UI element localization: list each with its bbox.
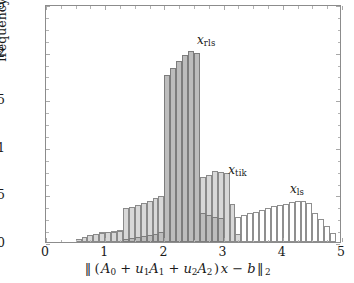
y-tick-label: 0.1 (0, 142, 5, 155)
x-tick-major-top (224, 6, 225, 10)
x-tick-minor-top (90, 6, 91, 9)
y-tick-major (46, 196, 50, 197)
y-tick-minor-right (338, 113, 341, 114)
x-tick-major (283, 238, 284, 242)
y-tick-minor (46, 66, 49, 67)
x-tick-minor-top (135, 6, 136, 9)
x-tick-minor-top (209, 6, 210, 9)
x-tick-minor-top (327, 6, 328, 9)
x-tick-minor-top (298, 6, 299, 9)
y-tick-minor-right (338, 208, 341, 209)
series-label-x-ls: xls (290, 182, 304, 197)
x-tick-minor (179, 240, 180, 243)
y-tick-major-right (336, 101, 340, 102)
y-tick-minor-right (338, 42, 341, 43)
y-tick-minor (46, 42, 49, 43)
y-tick-minor-right (338, 220, 341, 221)
x-tick-label: 3 (198, 246, 248, 259)
y-tick-minor (46, 113, 49, 114)
y-tick-minor-right (338, 173, 341, 174)
x-tick-label: 5 (316, 246, 354, 259)
y-tick-minor-right (338, 185, 341, 186)
x-tick-minor-top (312, 6, 313, 9)
x-tick-minor (238, 240, 239, 243)
x-tick-minor (298, 240, 299, 243)
y-tick-minor (46, 18, 49, 19)
x-tick-major (105, 238, 106, 242)
y-tick-major (46, 149, 50, 150)
y-tick-minor (46, 185, 49, 186)
x-tick-label: 0 (20, 246, 70, 259)
y-tick-minor-right (338, 30, 341, 31)
y-tick-major-right (336, 149, 340, 150)
y-tick-minor-right (338, 232, 341, 233)
y-tick-minor (46, 173, 49, 174)
histogram-figure: frequency xrlsxtikxls 00.050.10.150.20.2… (0, 0, 354, 283)
x-tick-major-top (164, 6, 165, 10)
x-tick-minor (150, 240, 151, 243)
x-tick-minor (209, 240, 210, 243)
y-tick-minor-right (338, 66, 341, 67)
x-tick-major-top (105, 6, 106, 10)
y-tick-minor (46, 137, 49, 138)
x-tick-major (224, 238, 225, 242)
plot-area: xrlsxtikxls (45, 5, 341, 243)
x-tick-major-top (283, 6, 284, 10)
x-tick-minor (268, 240, 269, 243)
y-tick-label: 0.2 (0, 47, 5, 60)
x-tick-major (46, 238, 47, 242)
y-tick-minor-right (338, 77, 341, 78)
series-label-x-tik: xtik (228, 163, 247, 178)
y-tick-major-right (336, 54, 340, 55)
y-tick-minor-right (338, 18, 341, 19)
y-tick-minor (46, 89, 49, 90)
y-tick-minor-right (338, 137, 341, 138)
x-tick-label: 2 (138, 246, 188, 259)
x-tick-minor-top (268, 6, 269, 9)
y-tick-label: 0.15 (0, 94, 5, 107)
x-tick-minor-top (76, 6, 77, 9)
y-tick-minor (46, 30, 49, 31)
x-tick-minor (76, 240, 77, 243)
y-tick-label: 0.05 (0, 189, 5, 202)
y-tick-label: 0.25 (0, 0, 5, 12)
y-tick-major (46, 54, 50, 55)
x-tick-minor-top (120, 6, 121, 9)
y-tick-minor-right (338, 89, 341, 90)
series-label-x-rls: xrls (197, 33, 216, 48)
y-tick-minor (46, 77, 49, 78)
x-tick-minor (253, 240, 254, 243)
x-tick-major (164, 238, 165, 242)
x-tick-minor (61, 240, 62, 243)
x-tick-minor-top (194, 6, 195, 9)
histogram-bar (330, 233, 336, 242)
y-tick-minor (46, 161, 49, 162)
x-tick-minor (194, 240, 195, 243)
y-tick-minor-right (338, 161, 341, 162)
x-tick-minor-top (253, 6, 254, 9)
x-tick-minor (90, 240, 91, 243)
y-tick-minor-right (338, 125, 341, 126)
x-tick-major-top (46, 6, 47, 10)
y-tick-minor (46, 125, 49, 126)
x-tick-minor (312, 240, 313, 243)
y-tick-major (46, 101, 50, 102)
y-tick-major-right (336, 6, 340, 7)
y-tick-minor (46, 208, 49, 209)
x-tick-label: 1 (79, 246, 129, 259)
x-tick-label: 4 (257, 246, 307, 259)
histogram-bars-layer (46, 6, 340, 242)
x-tick-minor-top (238, 6, 239, 9)
x-tick-minor (135, 240, 136, 243)
x-axis-title: ‖(A0 + u1A1 + u2A2)x − b‖2 (0, 261, 354, 277)
y-tick-major-right (336, 196, 340, 197)
x-tick-minor (327, 240, 328, 243)
x-tick-minor (120, 240, 121, 243)
x-tick-minor-top (150, 6, 151, 9)
y-tick-minor (46, 232, 49, 233)
y-tick-label: 0 (0, 237, 5, 250)
x-tick-minor-top (179, 6, 180, 9)
x-tick-major (342, 238, 343, 242)
x-tick-minor-top (61, 6, 62, 9)
y-tick-minor (46, 220, 49, 221)
